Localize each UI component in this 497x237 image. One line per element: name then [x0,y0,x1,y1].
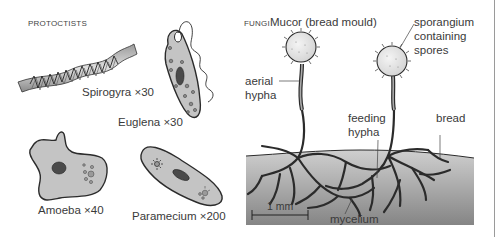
scale-bar-label: 1 mm [267,200,293,212]
aerial-hypha-label: aerial hypha [245,74,276,102]
feeding-hypha-label: feeding hypha [348,111,386,139]
bread-label: bread [436,111,465,125]
amoeba-caption: Amoeba ×40 [38,204,104,216]
sporangium-label-line1: sporangium [414,15,474,29]
sporangium-right [373,42,411,78]
aerial-hypha-label-line2: hypha [245,88,276,102]
fungi-title: Mucor (bread mould) [270,16,377,28]
aerial-hypha-right [393,76,394,110]
sporangium-left [282,28,320,64]
sporangium-label: sporangium containing spores [414,15,474,57]
spirogyra-caption: Spirogyra ×30 [82,86,154,98]
sporangium-label-line3: spores [414,43,474,57]
diagram-canvas: PROTOCTISTS [0,0,497,237]
mycelium-label: mycelium [330,212,379,226]
amoeba-illustration [30,132,107,200]
feeding-hypha-label-line2: hypha [348,125,386,139]
frame-right-border [494,0,495,237]
aerial-hypha-label-line1: aerial [245,74,276,88]
sporangium-label-line2: containing [414,29,474,43]
paramecium-illustration [141,147,222,206]
aerial-hypha-left [300,64,302,110]
spirogyra-illustration [18,44,137,92]
euglena-illustration [165,22,213,118]
fungi-section-label: FUNGI [244,19,270,28]
feeding-hypha-label-line1: feeding [348,111,386,125]
paramecium-caption: Paramecium ×200 [132,210,226,222]
euglena-caption: Euglena ×30 [118,116,183,128]
